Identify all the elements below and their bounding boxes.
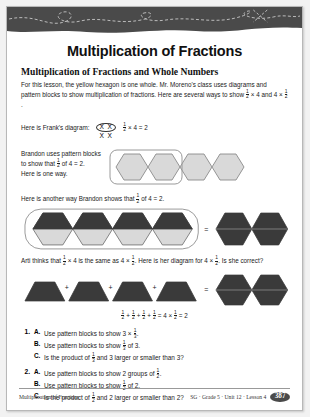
footer-row: Multiplication of Fractions SG · Grade 5… [19, 392, 290, 402]
fraction-one-half: 12 [157, 368, 160, 378]
frank-diagram-row: Here is Frank's diagram: X X X X 12 × 4 … [21, 116, 288, 140]
frank-x-top: X X [96, 123, 116, 132]
brandon-text: Brandon uses pattern blocks to show that… [21, 147, 101, 179]
fraction-one-half: 12 [174, 311, 177, 321]
brandon-result-hexagons [212, 207, 288, 251]
footer-right-group: SG · Grade 5 · Unit 12 · Lesson 4 387 [190, 392, 290, 402]
fraction-one-half: 12 [132, 311, 135, 321]
frank-equation: 12 × 4 = 2 [123, 123, 148, 133]
fraction-one-third: 13 [134, 328, 137, 338]
arti-caption: Arti thinks that 12 × 4 is the same as 4… [21, 256, 288, 266]
frank-x-marks: X X X X [96, 116, 116, 140]
part-text: Use pattern blocks to show 13 of 3. [44, 340, 140, 351]
brandon-line-3: Here is one way. [21, 169, 101, 179]
decorative-banner [7, 7, 302, 37]
fraction-one-half: 12 [153, 311, 156, 321]
brandon-line-2: to show that 12 of 4 = 2. [21, 159, 101, 169]
footer-reference: SG · Grade 5 · Unit 12 · Lesson 4 [190, 394, 266, 400]
fraction-one-third: 13 [123, 340, 126, 350]
question-part: C. Is the product of 13 and 3 larger or … [34, 352, 288, 363]
fraction-one-half: 12 [246, 90, 249, 100]
part-letter: C. [34, 352, 41, 363]
brandon-hexagon-row-diagram [107, 147, 249, 187]
question-part: A. Use pattern blocks to show 3 × 13. [34, 328, 288, 339]
frank-x-bottom: X X [96, 133, 116, 140]
question-part: A. Use pattern blocks to show 2 groups o… [34, 368, 288, 379]
section-heading: Multiplication of Fractions and Whole Nu… [21, 66, 288, 77]
arti-diagram-row: + + + = [21, 270, 288, 310]
equals-sign: = [204, 226, 208, 233]
footer-title: Multiplication of Fractions [19, 394, 79, 400]
fraction-one-half: 12 [215, 256, 218, 266]
page-title: Multiplication of Fractions [21, 43, 288, 59]
part-text: Is the product of 13 and 3 larger or sma… [44, 352, 184, 363]
question-parts: A. Use pattern blocks to show 3 × 13. B.… [34, 328, 288, 364]
page-content: Multiplication of Fractions Multiplicati… [7, 37, 302, 404]
question-number: 1. [21, 328, 30, 364]
plus-sign: + [152, 284, 156, 291]
brandon-second-row: = [21, 207, 288, 251]
fraction-one-half: 12 [132, 256, 135, 266]
plus-sign: + [109, 284, 113, 291]
part-letter: B. [34, 340, 41, 351]
arti-result-hexagons [212, 270, 288, 310]
arti-trapezoid-row: + + + [21, 274, 200, 306]
part-text: Use pattern blocks to show 3 × 13. [44, 328, 139, 339]
fraction-one-half: 12 [121, 311, 124, 321]
fraction-one-half: 12 [123, 123, 126, 133]
fraction-one-half: 12 [285, 90, 288, 100]
fraction-one-half: 12 [63, 256, 66, 266]
equals-sign: = [204, 286, 208, 293]
page-number-badge: 387 [270, 392, 290, 402]
fraction-one-half: 12 [57, 159, 60, 169]
banner-wave-edge [7, 24, 302, 37]
part-text: Use pattern blocks to show 2 groups of 1… [44, 368, 161, 379]
fraction-one-half: 12 [142, 311, 145, 321]
brandon-second-caption: Here is another way Brandon shows that 1… [21, 194, 288, 204]
intro-paragraph: For this lesson, the yellow hexagon is o… [21, 80, 288, 110]
question-item: 1. A. Use pattern blocks to show 3 × 13.… [21, 328, 288, 364]
arti-equation: 12 + 12 + 12 + 12 = 4 × 12 = 2 [21, 311, 288, 321]
page-footer: Multiplication of Fractions SG · Grade 5… [7, 388, 302, 402]
brandon-line-1: Brandon uses pattern blocks [21, 149, 101, 159]
part-letter: A. [34, 368, 41, 379]
question-part: B. Use pattern blocks to show 13 of 3. [34, 340, 288, 351]
frank-label: Here is Frank's diagram: [21, 124, 89, 131]
footer-divider [19, 388, 290, 389]
part-letter: A. [34, 328, 41, 339]
fraction-one-half: 12 [136, 194, 139, 204]
brandon-first-row: Brandon uses pattern blocks to show that… [21, 147, 288, 187]
plus-sign: + [65, 284, 69, 291]
brandon-half-shaded-hexagons [21, 207, 200, 251]
worksheet-page: Multiplication of Fractions Multiplicati… [6, 6, 303, 411]
fraction-one-third: 13 [92, 352, 95, 362]
